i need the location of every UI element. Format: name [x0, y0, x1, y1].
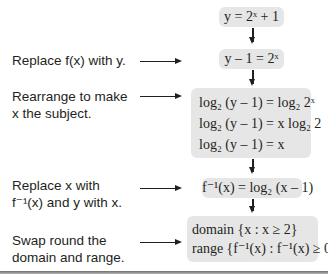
bottom-divider [0, 271, 328, 274]
step-label-4: Replace x with f⁻¹(x) and y with x. [12, 177, 122, 211]
equation-3b: log₂ (y – 1) = x log₂ 2 [199, 113, 311, 134]
domain-statement: domain {x : x ≥ 2} [192, 220, 318, 239]
step-label-3: Rearrange to make x the subject. [12, 88, 128, 122]
equation-3c: log₂ (y – 1) = x [199, 134, 311, 155]
equation-2: y – 1 = 2ˣ [225, 51, 279, 66]
right-arrow-2 [140, 61, 180, 62]
equation-1: y = 2ˣ + 1 [224, 9, 279, 24]
step-box-3: log₂ (y – 1) = log₂ 2ˣ log₂ (y – 1) = x … [191, 88, 311, 158]
step-label-3-line-2: x the subject. [12, 105, 128, 122]
right-arrow-3 [140, 96, 180, 97]
equation-3a: log₂ (y – 1) = log₂ 2ˣ [199, 92, 311, 113]
step-label-4-line-1: Replace x with [12, 177, 122, 194]
step-label-5: Swap round the domain and range. [12, 232, 125, 266]
step-box-1: y = 2ˣ + 1 [219, 7, 284, 27]
step-box-2: y – 1 = 2ˣ [219, 49, 284, 69]
step-label-3-line-1: Rearrange to make [12, 88, 128, 105]
right-arrow-4 [140, 188, 180, 189]
step-label-5-line-2: domain and range. [12, 249, 125, 266]
range-statement: range {f⁻¹(x) : f⁻¹(x) ≥ 0} [192, 239, 318, 258]
down-arrow-1 [252, 28, 254, 42]
step-box-5: domain {x : x ≥ 2} range {f⁻¹(x) : f⁻¹(x… [187, 216, 318, 262]
step-box-4: f⁻¹(x) = log₂ (x – 1) [202, 178, 302, 198]
step-label-4-line-2: f⁻¹(x) and y with x. [12, 194, 122, 211]
step-label-5-line-1: Swap round the [12, 232, 125, 249]
right-arrow-5 [140, 242, 180, 243]
down-arrow-2 [252, 70, 254, 84]
equation-4: f⁻¹(x) = log₂ (x – 1) [202, 180, 313, 195]
step-label-2: Replace f(x) with y. [12, 52, 126, 69]
down-arrow-3 [252, 159, 254, 172]
down-arrow-4 [252, 199, 254, 211]
